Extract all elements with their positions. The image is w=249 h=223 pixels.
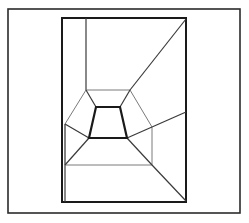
canvas-background bbox=[0, 0, 249, 223]
line-drawing-svg bbox=[0, 0, 249, 223]
figure-canvas bbox=[0, 0, 249, 223]
